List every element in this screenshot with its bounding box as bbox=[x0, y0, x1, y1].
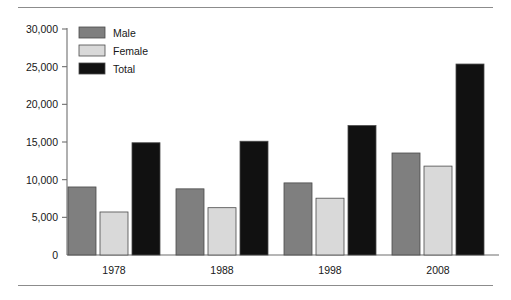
legend-label: Male bbox=[113, 27, 136, 39]
bar bbox=[240, 141, 268, 255]
bar bbox=[284, 183, 312, 255]
bar bbox=[176, 189, 204, 255]
bar bbox=[348, 126, 376, 255]
legend: MaleFemaleTotal bbox=[79, 27, 148, 75]
legend-label: Total bbox=[113, 63, 135, 75]
legend-swatch bbox=[79, 63, 105, 74]
y-axis-tick-label: 20,000 bbox=[26, 98, 58, 110]
y-axis-tick-label: 30,000 bbox=[26, 23, 58, 35]
bar-group bbox=[176, 141, 268, 255]
y-axis-tick-label: 5,000 bbox=[32, 211, 58, 223]
bar-group bbox=[284, 126, 376, 255]
x-axis-tick-label: 2008 bbox=[426, 264, 450, 276]
bar bbox=[456, 64, 484, 255]
y-axis-tick-label: 25,000 bbox=[26, 61, 58, 73]
bar bbox=[392, 153, 420, 255]
chart-area: 05,00010,00015,00020,00025,00030,0001978… bbox=[0, 0, 511, 300]
bar bbox=[100, 212, 128, 255]
y-axis-tick-label: 10,000 bbox=[26, 174, 58, 186]
bar-group bbox=[68, 143, 160, 255]
legend-swatch bbox=[79, 27, 105, 38]
x-axis-tick-label: 1998 bbox=[318, 264, 342, 276]
legend-swatch bbox=[79, 45, 105, 56]
bar bbox=[424, 166, 452, 255]
x-axis-tick-label: 1978 bbox=[102, 264, 126, 276]
y-axis-tick-label: 0 bbox=[52, 249, 58, 261]
bar-chart: 05,00010,00015,00020,00025,00030,0001978… bbox=[0, 0, 511, 300]
bar bbox=[68, 187, 96, 255]
bar bbox=[208, 208, 236, 255]
bar bbox=[316, 198, 344, 255]
figure: 05,00010,00015,00020,00025,00030,0001978… bbox=[0, 0, 511, 300]
x-axis-tick-label: 1988 bbox=[210, 264, 234, 276]
bar bbox=[132, 143, 160, 255]
legend-label: Female bbox=[113, 45, 148, 57]
y-axis-tick-label: 15,000 bbox=[26, 136, 58, 148]
bar-group bbox=[392, 64, 484, 255]
